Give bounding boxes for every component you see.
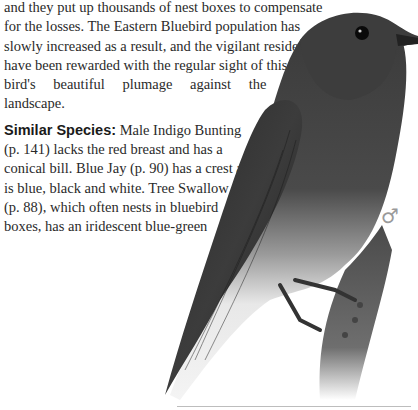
- caption-divider: [177, 406, 411, 407]
- bird-eye: [355, 26, 369, 40]
- bluebird-illustration: [150, 0, 418, 410]
- male-symbol-icon: ♂: [381, 204, 399, 228]
- bird-leg: [280, 285, 320, 330]
- similar-species-label: Similar Species:: [4, 122, 116, 138]
